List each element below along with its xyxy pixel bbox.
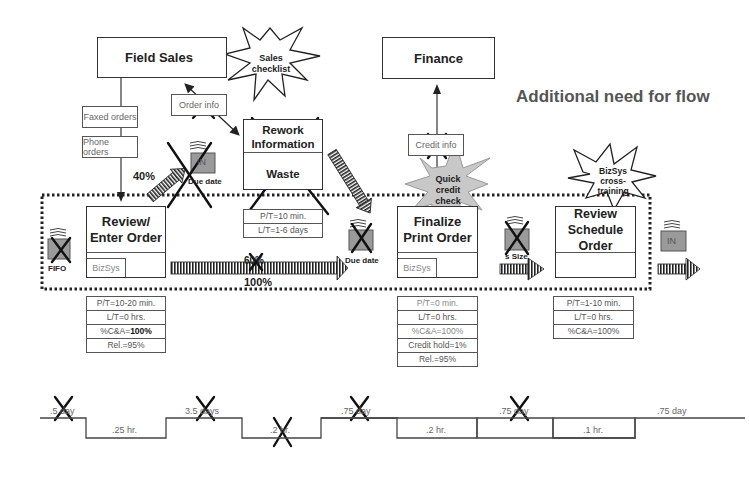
finance-box: Finance [382, 37, 495, 79]
inventory-size-label: s Size [505, 252, 528, 261]
percent-100: 100% [244, 276, 272, 288]
order-info-box: Order info [171, 94, 227, 116]
field-sales-box: Field Sales [97, 37, 227, 78]
percent-40: 40% [133, 170, 155, 182]
data-box-review-schedule-order: P/T=1-10 min. L/T=0 hrs. %C&A=100% [553, 296, 634, 339]
timeline-bottom-3: .1 hr. [583, 425, 603, 435]
timeline-top-0: .5 day [50, 406, 75, 416]
timeline-top-4: .75 day [657, 406, 687, 416]
process-review-schedule-order: Review Schedule Order [555, 206, 636, 278]
finance-label: Finance [414, 51, 463, 66]
percent-60: 60% [244, 255, 264, 266]
rework-push-arrow [324, 147, 377, 218]
sales-checklist-text: Sales checklist [248, 53, 294, 75]
rework-information-box: Rework Information Waste [243, 119, 323, 190]
timeline-bottom-2: .2 hr. [426, 425, 446, 435]
up-arrowhead [433, 84, 441, 94]
phone-orders-info: Phone orders [82, 136, 138, 158]
timeline-top-2: .75 day [341, 406, 371, 416]
process-system-label: BizSys [87, 258, 126, 277]
timeline-top-3: .75 day [499, 406, 529, 416]
timeline-top-1: 3.5 days [185, 406, 219, 416]
timeline-bottom-0: .25 hr. [112, 425, 137, 435]
credit-info-box: Credit info [408, 134, 464, 156]
process-review-enter-order: Review/ Enter Order BizSys [86, 206, 166, 278]
data-box-review-enter-order: P/T=10-20 min. L/T=0 hrs. %C&A=100% Rel.… [86, 296, 166, 353]
inventory-top-due-date-label: Due date [188, 177, 222, 186]
process-finalize-print-order: Finalize Print Order BizSys [397, 206, 478, 278]
inventory-fifo-label: FIFO [48, 264, 66, 273]
inventory-final-in: IN [667, 236, 676, 246]
timeline-bottom-1: .2 hr. [270, 425, 290, 435]
quick-credit-check-text: Quick credit check [424, 174, 472, 207]
down-arrowhead [117, 192, 125, 202]
bizsys-cross-training-text: BizSys cross- training [588, 166, 638, 196]
data-box-finalize-print-order: P/T=0 min. L/T=0 hrs. %C&A=100% Credit h… [397, 296, 478, 367]
inventory-mid-due-date-label: Due date [345, 256, 379, 265]
field-sales-label: Field Sales [125, 50, 193, 65]
ca-row: %C&A=100% [87, 325, 165, 339]
process-system-label: BizSys [398, 258, 437, 277]
rework-title: Rework Information [244, 120, 322, 153]
page-title: Additional need for flow [516, 87, 710, 107]
inventory-top-in: IN [197, 157, 206, 167]
push-arrow-final [658, 258, 700, 280]
rework-data-box: P/T=10 min. L/T=1-6 days [243, 209, 323, 238]
rework-waste-label: Waste [244, 168, 322, 180]
faxed-orders-info: Faxed orders [82, 106, 138, 128]
push-arrow-size [500, 258, 544, 280]
